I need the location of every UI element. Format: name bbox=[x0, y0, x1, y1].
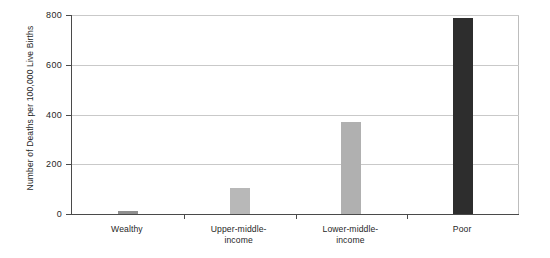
y-axis-tick bbox=[66, 164, 72, 165]
x-axis-category-label-line: income bbox=[179, 235, 299, 246]
y-axis-tick-label: 200 bbox=[22, 159, 62, 169]
bar bbox=[118, 211, 138, 214]
y-axis-title: Number of Deaths per 100,000 Live Births bbox=[25, 3, 35, 213]
bar bbox=[453, 18, 473, 215]
y-axis-tick bbox=[66, 115, 72, 116]
bar-chart-figure: Number of Deaths per 100,000 Live Births… bbox=[0, 0, 550, 258]
y-axis-tick-label: 400 bbox=[22, 110, 62, 120]
x-axis-category-label-line: Upper-middle- bbox=[179, 224, 299, 235]
x-axis-category-label-line: income bbox=[290, 235, 410, 246]
bar bbox=[341, 122, 361, 214]
y-axis-tick-label: 0 bbox=[22, 209, 62, 219]
gridline bbox=[72, 164, 519, 165]
gridline bbox=[72, 115, 519, 116]
y-axis-tick bbox=[66, 65, 72, 66]
plot-area bbox=[71, 15, 519, 215]
y-axis-tick-label: 600 bbox=[22, 60, 62, 70]
gridline bbox=[72, 15, 519, 16]
y-axis-tick-label: 800 bbox=[22, 10, 62, 20]
x-axis-category-label-line: Poor bbox=[402, 224, 522, 235]
x-axis-category-label: Lower-middle-income bbox=[290, 224, 410, 246]
x-axis-category-label: Poor bbox=[402, 224, 522, 235]
gridline bbox=[72, 65, 519, 66]
x-axis-category-label: Upper-middle-income bbox=[179, 224, 299, 246]
x-axis-tick bbox=[184, 214, 185, 219]
y-axis-tick bbox=[66, 214, 72, 215]
x-axis-category-label-line: Wealthy bbox=[67, 224, 187, 235]
x-axis-category-label-line: Lower-middle- bbox=[290, 224, 410, 235]
bar bbox=[230, 188, 250, 214]
x-axis-tick bbox=[407, 214, 408, 219]
x-axis-tick bbox=[296, 214, 297, 219]
y-axis-tick bbox=[66, 15, 72, 16]
x-axis-category-label: Wealthy bbox=[67, 224, 187, 235]
